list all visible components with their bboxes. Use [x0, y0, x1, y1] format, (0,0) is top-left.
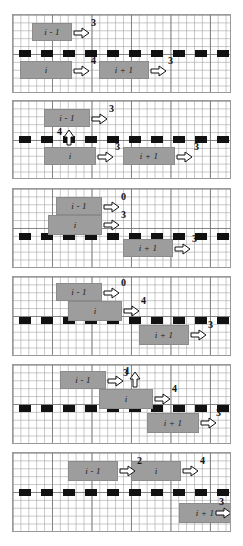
bar-i-minus-1: i - 1: [32, 23, 72, 41]
arrow-i-minus-1-right-arrow-icon: [103, 201, 120, 213]
arrow-i-value-label: 3: [121, 210, 126, 220]
arrow-i-minus-1-value-label: 0: [121, 192, 126, 202]
panel-6: i - 1ii + 1243: [12, 452, 231, 532]
bar-i-minus-1: i - 1: [68, 461, 118, 481]
arrow-i-minus-1-right-arrow-icon: [107, 375, 124, 387]
arrow-i-plus-1-value-label: 3: [168, 56, 173, 66]
panel-3: i - 1ii + 1033: [12, 188, 231, 268]
arrow-i-plus-1-value-label: 3: [208, 320, 213, 330]
arrow-i-right-arrow-icon: [73, 65, 90, 77]
bar-i: i: [48, 215, 102, 235]
arrow-i-value-label: 4: [200, 456, 205, 466]
arrow-i-minus-1-value-label: 3: [109, 104, 114, 114]
arrow-i-value-label: 4: [141, 296, 146, 306]
arrow-i-plus-1-right-arrow-icon: [150, 65, 167, 77]
bar-i-minus-1: i - 1: [56, 197, 102, 215]
arrow-i-right-arrow-icon: [123, 305, 140, 317]
bar-i-minus-1: i - 1: [56, 283, 102, 301]
panel-5: i - 1ii + 11343: [12, 364, 231, 444]
arrow-i-up-up-arrow-icon: [63, 129, 75, 146]
dashed-track-line: [13, 489, 231, 496]
bar-i: i: [44, 147, 96, 165]
bar-i: i: [68, 301, 122, 321]
panel-1: i - 1ii + 1343: [12, 14, 231, 93]
arrow-i-up-value-label: 3: [123, 368, 128, 378]
arrow-i-right-arrow-icon: [154, 393, 171, 405]
arrow-i-value-label: 4: [91, 56, 96, 66]
bar-i-plus-1: i + 1: [123, 147, 175, 165]
arrow-i-right-arrow-icon: [103, 219, 120, 231]
arrow-i-minus-1-value-label: 2: [137, 456, 142, 466]
dashed-track-line: [13, 50, 231, 57]
arrow-i-plus-1-right-arrow-icon: [176, 151, 193, 163]
arrow-i-plus-1-right-arrow-icon: [174, 243, 191, 255]
bar-i: i: [99, 389, 153, 409]
dashed-track-line: [13, 317, 231, 324]
bar-i-plus-1: i + 1: [139, 325, 189, 345]
arrow-i-minus-1-right-arrow-icon: [103, 287, 120, 299]
bar-i-minus-1: i - 1: [60, 371, 106, 389]
arrow-i-minus-1-right-arrow-icon: [119, 465, 136, 477]
arrow-i-minus-1-right-arrow-icon: [73, 27, 90, 39]
arrow-i-minus-1-right-arrow-icon: [91, 113, 108, 125]
arrow-i-minus-1-value-label: 0: [121, 278, 126, 288]
arrow-i-plus-1-value-label: 3: [219, 497, 224, 507]
arrow-i-plus-1-value-label: 3: [194, 142, 199, 152]
arrow-i-value-label: 3: [115, 142, 120, 152]
panel-2: i - 1ii + 13433: [12, 100, 231, 179]
bar-i-plus-1: i + 1: [99, 61, 149, 79]
bar-i-minus-1: i - 1: [44, 109, 90, 127]
arrow-i-plus-1-right-arrow-icon: [190, 329, 207, 341]
bar-i-plus-1: i + 1: [147, 413, 199, 433]
dashed-track-line: [13, 233, 231, 240]
arrow-i-right-arrow-icon: [182, 465, 199, 477]
figure-root: i - 1ii + 1343i - 1ii + 13433i - 1ii + 1…: [0, 0, 243, 546]
arrow-i-plus-1-value-label: 3: [192, 234, 197, 244]
panel-4: i - 1ii + 1043: [12, 276, 231, 356]
arrow-i-plus-1-right-arrow-icon: [200, 417, 217, 429]
arrow-i-plus-1-right-arrow-icon: [215, 507, 231, 519]
arrow-i-plus-1-value-label: 3: [216, 408, 221, 418]
arrow-i-right-arrow-icon: [97, 151, 114, 163]
arrow-i-up-value-label: 4: [57, 127, 62, 137]
arrow-i-minus-1-value-label: 3: [91, 18, 96, 28]
bar-i: i: [20, 61, 72, 79]
arrow-i-value-label: 4: [172, 384, 177, 394]
arrow-i-up-up-arrow-icon: [129, 371, 141, 388]
bar-i-plus-1: i + 1: [123, 239, 173, 257]
